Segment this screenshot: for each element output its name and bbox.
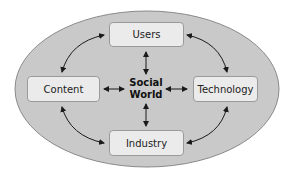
node-technology: Technology (193, 76, 258, 102)
node-content: Content (27, 76, 100, 102)
node-users-label: Users (132, 29, 160, 40)
node-technology-label: Technology (197, 84, 253, 95)
node-industry-label: Industry (126, 138, 167, 149)
node-industry: Industry (109, 130, 184, 156)
node-content-label: Content (44, 84, 84, 95)
node-users: Users (109, 22, 184, 47)
center-line-1: Social (124, 77, 168, 89)
center-line-2: World (124, 89, 168, 101)
center-label: Social World (124, 77, 168, 101)
